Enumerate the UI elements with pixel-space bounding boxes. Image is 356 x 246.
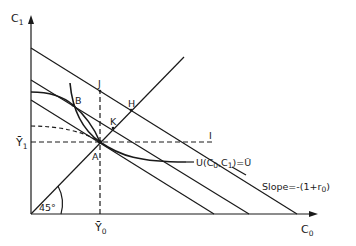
y1-tick-label: Ȳ1: [15, 136, 28, 151]
y0-tick-label: Ȳ0: [94, 221, 107, 236]
angle-arc: [58, 186, 62, 214]
y-axis-arrow: [28, 15, 34, 24]
point-j-label: J: [97, 78, 101, 89]
point-h-label: H: [128, 98, 135, 109]
y-axis-label: C1: [11, 12, 24, 27]
budget-line-mid: [31, 80, 249, 214]
point-b-label: B: [75, 95, 82, 106]
production-possibility-curve: [31, 92, 100, 142]
forty-five-degree-line: [31, 57, 184, 214]
indifference-curve: [70, 83, 186, 162]
slope-leader: [232, 167, 246, 175]
angle-label: 45°: [39, 202, 56, 213]
budget-line-high: [31, 48, 297, 214]
point-h-dot: [130, 109, 133, 112]
slope-label: Slope=-(1+r0): [262, 181, 330, 194]
x-axis-arrow: [309, 211, 318, 217]
point-a-label: A: [92, 151, 99, 162]
point-j-dot: [99, 90, 102, 93]
point-k-dot: [112, 127, 115, 130]
budget-line-low: [31, 100, 214, 214]
point-a-dot: [98, 140, 102, 144]
point-k-label: K: [110, 116, 117, 127]
x-axis-label: C0: [301, 223, 314, 238]
intertemporal-consumption-diagram: C1 C0 Ȳ1 Ȳ0 A B J H K I 45° U(C0,C1)=Ū S…: [0, 0, 356, 246]
point-i-label: I: [209, 130, 212, 141]
